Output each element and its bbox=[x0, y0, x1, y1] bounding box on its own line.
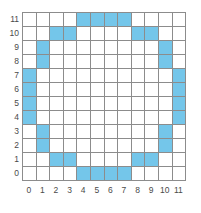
grid-cell-empty[interactable] bbox=[132, 55, 146, 69]
grid-cell-empty[interactable] bbox=[77, 125, 91, 139]
grid-cell-empty[interactable] bbox=[173, 167, 187, 181]
grid-cell-empty[interactable] bbox=[105, 97, 119, 111]
grid-cell-filled[interactable] bbox=[173, 83, 187, 97]
grid-cell-empty[interactable] bbox=[23, 125, 37, 139]
grid-cell-empty[interactable] bbox=[145, 13, 159, 27]
grid-cell-empty[interactable] bbox=[173, 125, 187, 139]
grid-cell-filled[interactable] bbox=[37, 139, 51, 153]
grid-cell-empty[interactable] bbox=[91, 27, 105, 41]
grid-cell-filled[interactable] bbox=[159, 139, 173, 153]
grid-cell-empty[interactable] bbox=[132, 111, 146, 125]
grid-cell-empty[interactable] bbox=[145, 125, 159, 139]
grid-cell-filled[interactable] bbox=[37, 55, 51, 69]
grid-cell-empty[interactable] bbox=[77, 139, 91, 153]
grid-cell-empty[interactable] bbox=[145, 55, 159, 69]
grid-cell-filled[interactable] bbox=[23, 111, 37, 125]
grid-cell-empty[interactable] bbox=[77, 41, 91, 55]
grid-cell-filled[interactable] bbox=[159, 41, 173, 55]
grid-cell-empty[interactable] bbox=[77, 27, 91, 41]
grid-cell-empty[interactable] bbox=[23, 55, 37, 69]
grid-cell-empty[interactable] bbox=[145, 41, 159, 55]
grid-cell-empty[interactable] bbox=[118, 139, 132, 153]
grid-cell-empty[interactable] bbox=[64, 111, 78, 125]
grid-cell-empty[interactable] bbox=[91, 125, 105, 139]
grid-cell-filled[interactable] bbox=[118, 167, 132, 181]
grid-cell-empty[interactable] bbox=[173, 139, 187, 153]
grid-cell-empty[interactable] bbox=[37, 153, 51, 167]
grid-cell-empty[interactable] bbox=[132, 167, 146, 181]
grid-cell-empty[interactable] bbox=[77, 111, 91, 125]
grid-cell-filled[interactable] bbox=[77, 13, 91, 27]
grid-cell-empty[interactable] bbox=[77, 69, 91, 83]
grid-cell-empty[interactable] bbox=[23, 27, 37, 41]
grid-cell-empty[interactable] bbox=[173, 55, 187, 69]
grid-cell-filled[interactable] bbox=[37, 41, 51, 55]
grid-cell-empty[interactable] bbox=[50, 167, 64, 181]
grid-cell-empty[interactable] bbox=[118, 27, 132, 41]
grid-cell-empty[interactable] bbox=[145, 167, 159, 181]
grid-cell-empty[interactable] bbox=[118, 125, 132, 139]
grid-cell-empty[interactable] bbox=[173, 13, 187, 27]
grid-cell-empty[interactable] bbox=[50, 83, 64, 97]
grid-cell-empty[interactable] bbox=[37, 69, 51, 83]
grid-cell-empty[interactable] bbox=[91, 139, 105, 153]
grid-cell-empty[interactable] bbox=[105, 27, 119, 41]
grid-cell-filled[interactable] bbox=[145, 27, 159, 41]
grid-cell-empty[interactable] bbox=[145, 111, 159, 125]
grid-cell-empty[interactable] bbox=[50, 13, 64, 27]
grid-cell-empty[interactable] bbox=[50, 139, 64, 153]
grid-cell-empty[interactable] bbox=[118, 83, 132, 97]
grid-cell-filled[interactable] bbox=[64, 153, 78, 167]
grid-cell-filled[interactable] bbox=[64, 27, 78, 41]
grid-cell-empty[interactable] bbox=[91, 111, 105, 125]
grid-cell-empty[interactable] bbox=[50, 111, 64, 125]
grid-cell-empty[interactable] bbox=[159, 97, 173, 111]
grid-cell-empty[interactable] bbox=[23, 41, 37, 55]
grid-cell-empty[interactable] bbox=[91, 153, 105, 167]
grid-cell-filled[interactable] bbox=[159, 55, 173, 69]
grid-cell-filled[interactable] bbox=[77, 167, 91, 181]
grid-cell-empty[interactable] bbox=[64, 41, 78, 55]
grid-cell-empty[interactable] bbox=[77, 55, 91, 69]
grid-cell-filled[interactable] bbox=[23, 83, 37, 97]
grid-cell-filled[interactable] bbox=[37, 125, 51, 139]
grid-cell-empty[interactable] bbox=[118, 41, 132, 55]
grid-cell-empty[interactable] bbox=[91, 55, 105, 69]
grid-cell-empty[interactable] bbox=[132, 13, 146, 27]
grid-cell-empty[interactable] bbox=[37, 83, 51, 97]
grid-cell-empty[interactable] bbox=[118, 55, 132, 69]
grid-cell-empty[interactable] bbox=[50, 55, 64, 69]
grid-cell-empty[interactable] bbox=[37, 167, 51, 181]
grid-cell-empty[interactable] bbox=[23, 153, 37, 167]
grid-cell-empty[interactable] bbox=[64, 55, 78, 69]
grid-cell-empty[interactable] bbox=[105, 139, 119, 153]
grid-cell-filled[interactable] bbox=[105, 13, 119, 27]
grid-cell-filled[interactable] bbox=[132, 153, 146, 167]
grid-cell-filled[interactable] bbox=[173, 69, 187, 83]
grid-cell-empty[interactable] bbox=[64, 97, 78, 111]
grid-cell-empty[interactable] bbox=[159, 27, 173, 41]
grid-cell-empty[interactable] bbox=[132, 83, 146, 97]
grid-cell-empty[interactable] bbox=[159, 69, 173, 83]
grid-cell-filled[interactable] bbox=[50, 27, 64, 41]
grid-cell-empty[interactable] bbox=[105, 153, 119, 167]
grid-cell-empty[interactable] bbox=[64, 125, 78, 139]
grid-cell-empty[interactable] bbox=[173, 27, 187, 41]
grid-cell-empty[interactable] bbox=[145, 83, 159, 97]
grid-cell-filled[interactable] bbox=[173, 111, 187, 125]
grid-cell-empty[interactable] bbox=[159, 13, 173, 27]
grid-cell-empty[interactable] bbox=[23, 139, 37, 153]
grid-cell-empty[interactable] bbox=[118, 69, 132, 83]
grid-cell-empty[interactable] bbox=[91, 69, 105, 83]
grid-cell-filled[interactable] bbox=[91, 13, 105, 27]
grid-cell-filled[interactable] bbox=[159, 125, 173, 139]
grid-cell-empty[interactable] bbox=[173, 153, 187, 167]
grid-cell-empty[interactable] bbox=[37, 111, 51, 125]
grid-cell-empty[interactable] bbox=[50, 97, 64, 111]
grid-cell-empty[interactable] bbox=[64, 167, 78, 181]
grid-cell-empty[interactable] bbox=[145, 139, 159, 153]
grid-cell-empty[interactable] bbox=[64, 139, 78, 153]
grid-cell-filled[interactable] bbox=[132, 27, 146, 41]
grid-cell-empty[interactable] bbox=[105, 55, 119, 69]
grid-cell-empty[interactable] bbox=[23, 13, 37, 27]
